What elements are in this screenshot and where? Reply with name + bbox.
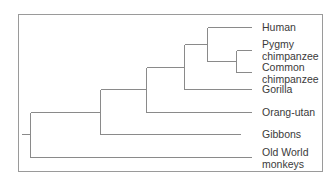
label-orang-utan: Orang-utan [262,107,315,119]
label-old-world-monkeys: Old World monkeys [262,147,309,170]
phylogenetic-tree-diagram: Human Pygmy chimpanzee Common chimpanzee… [0,0,336,182]
label-human: Human [262,22,296,34]
label-gorilla: Gorilla [262,84,292,96]
label-pygmy-chimpanzee: Pygmy chimpanzee [262,39,319,62]
label-gibbons: Gibbons [262,129,301,141]
label-common-chimpanzee: Common chimpanzee [262,62,319,85]
